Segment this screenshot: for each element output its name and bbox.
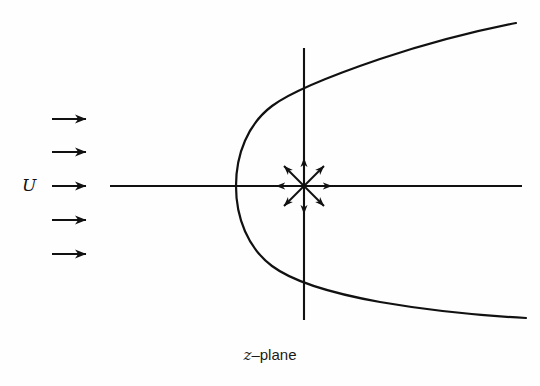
source-arrow-northeast <box>304 166 324 186</box>
source-arrow-southwest <box>284 186 304 206</box>
parabola-upper-branch <box>236 23 516 186</box>
caption-dash: – <box>251 346 259 363</box>
source-arrow-southeast <box>304 186 324 206</box>
point-source-arrows <box>276 158 332 214</box>
uniform-stream-arrows <box>52 119 86 254</box>
z-plane-diagram <box>0 0 540 386</box>
figure-caption: z–plane <box>0 346 540 364</box>
parabola-lower-branch <box>236 186 526 318</box>
figure-canvas: U z–plane <box>0 0 540 386</box>
freestream-label-u: U <box>22 177 36 194</box>
source-arrow-northwest <box>284 166 304 186</box>
caption-text: plane <box>260 346 297 363</box>
dividing-streamline-parabola <box>236 23 526 318</box>
